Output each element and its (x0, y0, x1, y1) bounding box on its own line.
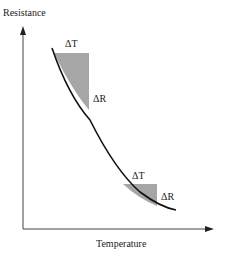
upper-delta-r-label: ΔR (93, 93, 106, 104)
lower-shaded-region (123, 184, 157, 206)
upper-shaded-region (54, 53, 89, 110)
x-axis-label: Temperature (96, 238, 146, 249)
lower-delta-r-label: ΔR (161, 191, 174, 202)
resistance-temperature-diagram: Resistance Temperature ΔT ΔR ΔT ΔR (0, 0, 233, 258)
diagram-canvas (0, 0, 233, 258)
x-axis-arrow-icon (205, 226, 214, 232)
lower-delta-t-label: ΔT (132, 170, 145, 181)
y-axis-label: Resistance (3, 7, 46, 18)
y-axis-arrow-icon (20, 26, 26, 35)
upper-delta-t-label: ΔT (65, 38, 78, 49)
